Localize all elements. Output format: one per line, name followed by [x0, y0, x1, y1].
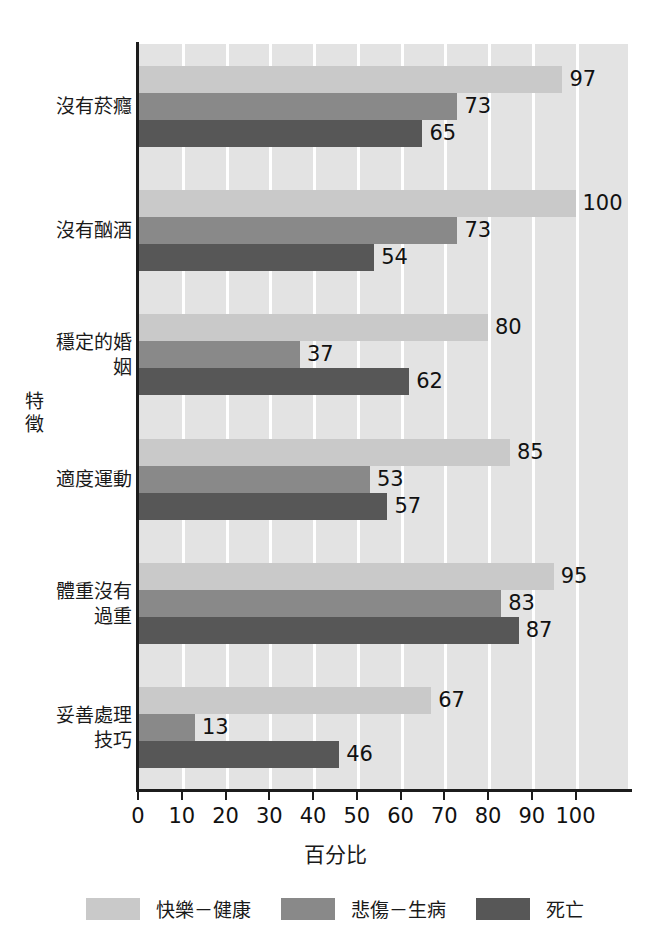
legend-item: 快樂－健康 — [86, 895, 281, 922]
x-tick-label: 10 — [168, 803, 195, 829]
legend-item: 悲傷－生病 — [281, 895, 476, 922]
x-tick-mark — [531, 792, 533, 800]
legend-label: 死亡 — [546, 895, 584, 922]
x-tick-mark — [225, 792, 227, 800]
x-tick-label: 90 — [518, 803, 545, 829]
x-tick-mark — [356, 792, 358, 800]
x-tick-mark — [137, 792, 139, 800]
x-tick-label: 80 — [475, 803, 502, 829]
legend-label: 悲傷－生病 — [351, 895, 446, 922]
x-tick-label: 40 — [300, 803, 327, 829]
legend: 快樂－健康悲傷－生病死亡 — [0, 895, 670, 922]
x-tick-label: 0 — [131, 803, 144, 829]
x-tick-label: 60 — [387, 803, 414, 829]
legend-swatch — [476, 898, 530, 920]
x-tick-label: 20 — [212, 803, 239, 829]
x-tick-mark — [400, 792, 402, 800]
legend-swatch — [86, 898, 140, 920]
x-tick-label: 70 — [431, 803, 458, 829]
x-tick-mark — [268, 792, 270, 800]
x-tick-mark — [312, 792, 314, 800]
x-tick-label: 100 — [555, 803, 595, 829]
x-tick-label: 30 — [256, 803, 283, 829]
x-axis-ticks: 0102030405060708090100 — [0, 0, 670, 951]
legend-label: 快樂－健康 — [156, 895, 251, 922]
x-tick-mark — [443, 792, 445, 800]
legend-item: 死亡 — [476, 895, 584, 922]
x-tick-mark — [487, 792, 489, 800]
legend-swatch — [281, 898, 335, 920]
x-tick-mark — [181, 792, 183, 800]
bar-chart: 特徵 沒有菸癮沒有酗酒穩定的婚姻適度運動體重沒有過重妥善處理技巧 9773651… — [0, 0, 670, 951]
x-tick-mark — [575, 792, 577, 800]
x-tick-label: 50 — [343, 803, 370, 829]
x-axis-title: 百分比 — [0, 838, 670, 868]
